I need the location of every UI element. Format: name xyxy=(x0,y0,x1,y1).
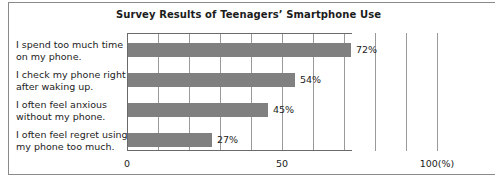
category-label-2: I often feel anxious without my phone. xyxy=(16,99,128,122)
category-label-1: I check my phone right after waking up. xyxy=(16,69,128,92)
category-label-3: I often feel regret using my phone too m… xyxy=(16,129,128,152)
bar-value-label-0: 72% xyxy=(356,43,377,57)
bar-value-label-3: 27% xyxy=(217,133,238,147)
bar-0 xyxy=(128,43,351,57)
bar-value-label-1: 54% xyxy=(300,73,321,87)
chart-title: Survey Results of Teenagers’ Smartphone … xyxy=(0,9,497,20)
bar-2 xyxy=(128,103,268,117)
plot-bottom-rule xyxy=(127,150,352,151)
bar-3 xyxy=(128,133,212,147)
gridline-100 xyxy=(437,33,438,151)
chart-figure: Survey Results of Teenagers’ Smartphone … xyxy=(0,0,497,183)
x-tick-label-0: 0 xyxy=(124,158,130,169)
x-tick-label-50: 50 xyxy=(276,158,288,169)
bar-1 xyxy=(128,73,295,87)
plot-area: 72%54%45%27% xyxy=(127,33,437,151)
gridline-90 xyxy=(406,33,407,151)
x-tick-label-100: 100(%) xyxy=(420,158,455,169)
plot-top-rule xyxy=(127,33,352,34)
category-label-0: I spend too much time on my phone. xyxy=(16,39,128,62)
bar-value-label-2: 45% xyxy=(273,103,294,117)
